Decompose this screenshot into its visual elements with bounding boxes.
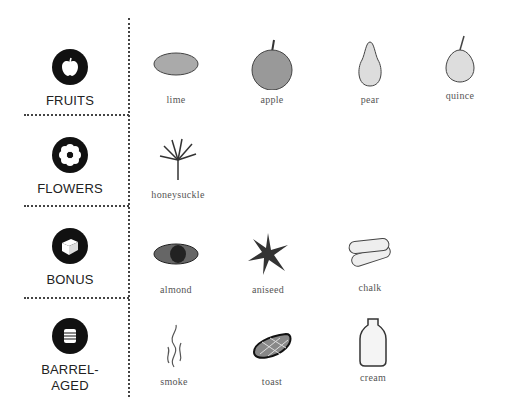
item-honeysuckle: honeysuckle <box>138 133 218 200</box>
category-bonus: BONUS <box>20 228 120 288</box>
vertical-divider <box>128 18 130 397</box>
item-pear: pear <box>330 38 410 105</box>
item-lime: lime <box>136 38 216 105</box>
row-divider <box>24 114 129 116</box>
honeysuckle-icon <box>138 133 218 185</box>
item-smoke: smoke <box>134 320 214 387</box>
chalk-icon <box>330 226 410 278</box>
barrel-icon <box>52 318 88 354</box>
category-label: FRUITS <box>20 93 120 109</box>
category-label: FLOWERS <box>20 181 120 197</box>
apple-icon <box>52 49 88 85</box>
category-barrel-aged: BARREL-AGED <box>20 318 120 394</box>
box-icon <box>52 228 88 264</box>
row-divider <box>24 205 129 207</box>
cream-bottle-icon <box>333 316 413 368</box>
item-aniseed: aniseed <box>228 228 308 295</box>
apple-icon <box>232 38 312 90</box>
row-divider <box>24 297 129 299</box>
toast-icon <box>232 320 312 372</box>
quince-icon <box>420 34 500 86</box>
item-cream: cream <box>333 316 413 383</box>
almond-icon <box>136 228 216 280</box>
smoke-icon <box>134 320 214 372</box>
pear-icon <box>330 38 410 90</box>
item-apple: apple <box>232 38 312 105</box>
item-chalk: chalk <box>330 226 410 293</box>
category-label: BARREL-AGED <box>20 362 120 394</box>
lime-icon <box>136 38 216 90</box>
item-quince: quince <box>420 34 500 101</box>
item-toast: toast <box>232 320 312 387</box>
category-fruits: FRUITS <box>20 49 120 109</box>
category-label: BONUS <box>20 272 120 288</box>
category-flowers: FLOWERS <box>20 137 120 197</box>
star-anise-icon <box>228 228 308 280</box>
flower-icon <box>52 137 88 173</box>
item-almond: almond <box>136 228 216 295</box>
